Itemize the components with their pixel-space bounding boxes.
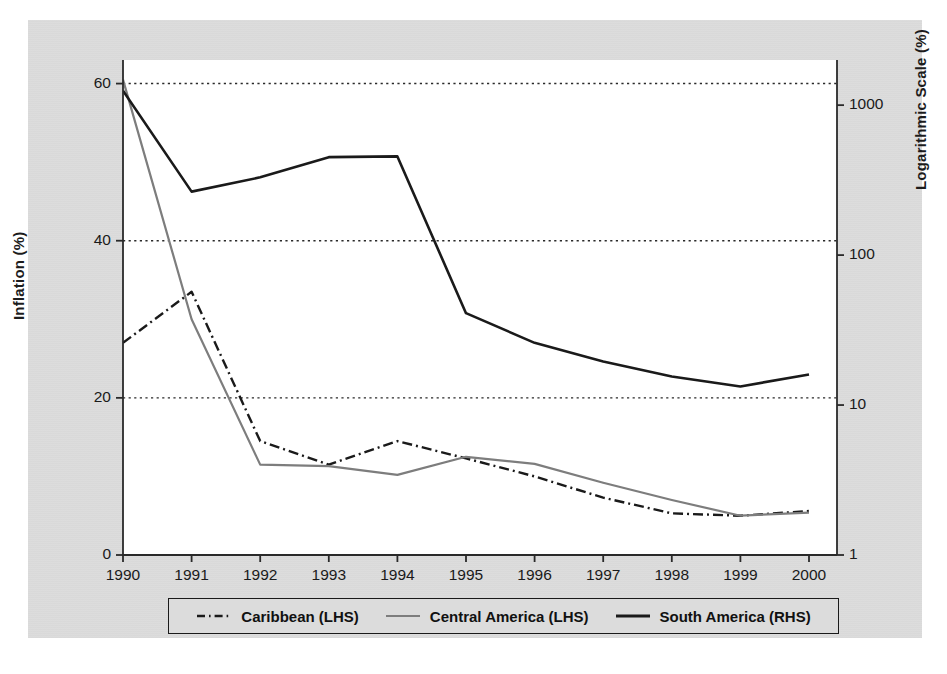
left-tick-label: 0 [61, 545, 111, 563]
x-tick-label: 1990 [93, 566, 153, 584]
legend-label: Central America (LHS) [430, 608, 589, 625]
left-tick-label: 60 [61, 74, 111, 92]
x-tick-label: 2000 [779, 566, 839, 584]
x-tick-label: 1998 [642, 566, 702, 584]
x-tick-label: 1995 [436, 566, 496, 584]
x-tick-label: 1992 [230, 566, 290, 584]
x-tick-label: 1996 [505, 566, 565, 584]
legend-label: South America (RHS) [660, 608, 811, 625]
legend-item[interactable]: South America (RHS) [615, 608, 811, 625]
legend-label: Caribbean (LHS) [241, 608, 359, 625]
left-tick-label: 20 [61, 388, 111, 406]
legend-line-icon [196, 610, 232, 622]
right-axis-title: Logarithmic Scale (%) [912, 29, 929, 190]
series-line-2 [123, 91, 809, 387]
x-tick-label: 1994 [367, 566, 427, 584]
right-tick-label: 1000 [849, 95, 905, 113]
legend-line-icon [385, 610, 421, 622]
legend-line-icon [615, 610, 651, 622]
figure-panel: Inflation (%) Logarithmic Scale (%) 0204… [28, 20, 922, 638]
x-tick-label: 1999 [710, 566, 770, 584]
left-axis-title: Inflation (%) [10, 232, 27, 320]
left-tick-label: 40 [61, 231, 111, 249]
series-line-0 [123, 292, 809, 516]
right-tick-label: 1 [849, 545, 905, 563]
series-line-1 [123, 80, 809, 516]
x-tick-label: 1993 [299, 566, 359, 584]
legend-item[interactable]: Central America (LHS) [385, 608, 589, 625]
x-tick-label: 1997 [573, 566, 633, 584]
right-tick-label: 100 [849, 245, 905, 263]
plot-area [123, 60, 837, 555]
right-tick-label: 10 [849, 395, 905, 413]
legend-item[interactable]: Caribbean (LHS) [196, 608, 359, 625]
x-tick-label: 1991 [162, 566, 222, 584]
chart-legend: Caribbean (LHS)Central America (LHS)Sout… [168, 598, 839, 634]
chart-svg [123, 60, 837, 555]
